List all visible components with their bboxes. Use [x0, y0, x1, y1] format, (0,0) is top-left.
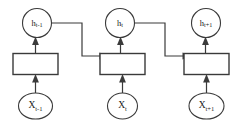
rnn-cell-t-plus-1 — [184, 54, 229, 75]
timestep-t: ht Xt — [100, 9, 145, 120]
diagram-canvas: ht-1 Xt-1 ht Xt — [0, 0, 243, 127]
rnn-cell-t-minus-1 — [13, 54, 58, 75]
input-edge-2-arrowhead — [119, 74, 126, 83]
input-edge-3 — [203, 74, 210, 93]
input-edge-2 — [119, 74, 126, 93]
timestep-t-minus-1: ht-1 Xt-1 — [13, 9, 58, 120]
hidden-edge-2 — [117, 37, 124, 54]
recurrent-edge-2-path — [135, 23, 186, 56]
rnn-cell-t — [100, 54, 145, 75]
hidden-edge-1 — [32, 37, 39, 54]
hidden-edge-3 — [202, 37, 209, 54]
recurrent-edge-1-path — [52, 23, 103, 56]
rnn-unrolled-diagram: ht-1 Xt-1 ht Xt — [0, 0, 243, 127]
timestep-t-plus-1: ht+1 Xt+1 — [184, 9, 229, 120]
input-edge-3-arrowhead — [203, 74, 210, 83]
input-edge-1-arrowhead — [32, 74, 39, 83]
input-edge-1 — [32, 74, 39, 93]
